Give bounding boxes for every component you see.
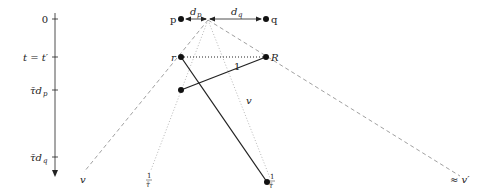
left-dashed-line <box>84 20 208 172</box>
fraction-num: 1 <box>147 172 151 180</box>
dq-label-sub: q <box>238 11 243 19</box>
rR-label: 1 <box>234 61 240 72</box>
point-R-label: R <box>270 52 279 63</box>
point-p-label: p <box>170 14 176 25</box>
dotted-right-fraction: 1 τ̄ <box>269 173 275 190</box>
point-q <box>263 16 269 22</box>
diagram: 0 t = t′ τ̄d p τ̄d q d p d q 1 v p q <box>0 0 488 193</box>
v-segment-label: v <box>246 95 252 106</box>
fraction-den: τ̄ <box>146 181 150 189</box>
left-cone-label: v <box>80 174 86 185</box>
solid-segment-v <box>181 57 267 182</box>
tick-label-tdp-sub: p <box>43 90 48 98</box>
dashed-cone <box>84 20 460 176</box>
point-tdp <box>178 87 184 93</box>
points: p q r R <box>170 14 279 185</box>
left-dotted-line <box>151 20 208 170</box>
dp-label: d <box>190 6 196 17</box>
right-dotted-line <box>208 20 270 178</box>
point-r <box>178 54 184 60</box>
dp-label-sub: p <box>197 11 202 19</box>
tick-label-0: 0 <box>42 14 48 25</box>
point-R <box>263 54 269 60</box>
time-axis: 0 t = t′ τ̄d p τ̄d q <box>23 13 58 177</box>
axis-arrow-icon <box>52 170 58 177</box>
solid-segment-to-R <box>181 57 266 90</box>
dotted-left-fraction: 1 τ̄ <box>146 172 152 189</box>
point-q-label: q <box>271 14 278 25</box>
fraction-den: τ̄ <box>269 182 273 190</box>
distance-arrows: d p d q <box>186 6 261 19</box>
right-cone-label: ≈ v′ <box>450 174 470 185</box>
tick-label-tdp: τ̄d <box>30 85 42 96</box>
tick-label-tdq: τ̄d <box>30 152 42 163</box>
dq-label: d <box>231 6 237 17</box>
point-p <box>178 16 184 22</box>
fraction-num: 1 <box>270 173 274 181</box>
tick-label-t: t = t′ <box>23 52 49 63</box>
tick-label-tdq-sub: q <box>43 157 48 165</box>
point-r-label: r <box>171 52 177 63</box>
